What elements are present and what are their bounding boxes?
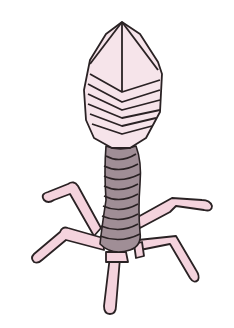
capsid-head	[84, 22, 162, 148]
tail-sheath	[100, 146, 141, 252]
bacteriophage-illustration: Bacteriophage illustration	[0, 0, 234, 328]
